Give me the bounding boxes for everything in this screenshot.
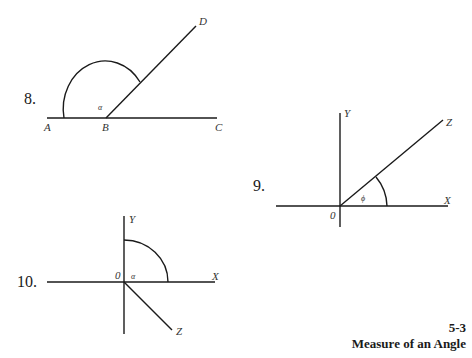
angle-diagrams: 8. A B C D α 9. Y Z X 0 ϕ 10. Y X Z 0 α [0,0,472,358]
ray-bd [106,26,196,118]
label-origin-10: 0 [115,269,121,281]
figure-9-number: 9. [253,177,265,194]
section-title: Measure of an Angle [352,336,466,352]
label-x-10: X [211,270,220,282]
angle-alpha-10: α [131,272,136,281]
label-a: A [43,121,51,133]
section-caption: 5-3 Measure of an Angle [352,320,466,352]
figure-8-number: 8. [24,90,36,107]
angle-arc-9 [376,177,387,206]
label-x-9: X [443,194,452,206]
label-c: C [215,121,223,133]
label-z-10: Z [176,325,183,337]
label-d: D [198,15,207,27]
ray-z-9 [340,120,443,206]
ray-z-10 [124,282,172,330]
figure-8: 8. A B C D α [24,15,223,133]
figure-9: 9. Y Z X 0 ϕ [253,107,453,227]
label-b: B [102,121,109,133]
figure-10-number: 10. [17,273,37,290]
label-origin-9: 0 [330,209,336,221]
label-y-10: Y [129,213,137,225]
label-z-9: Z [446,116,453,128]
angle-phi-9: ϕ [361,194,365,203]
angle-alpha-8: α [98,103,103,112]
section-number: 5-3 [352,320,466,336]
figure-10: 10. Y X Z 0 α [17,213,220,337]
label-y-9: Y [344,107,352,119]
